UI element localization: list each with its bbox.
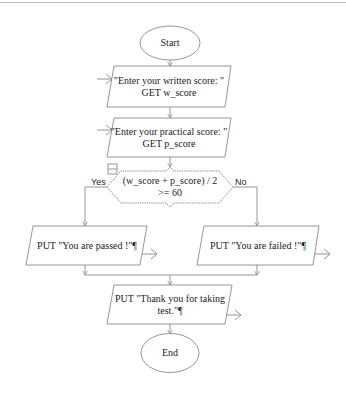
end-label: End bbox=[141, 347, 199, 359]
output-passed-label: PUT "You are passed !"¶ bbox=[28, 240, 146, 252]
decision-condition: (w_score + p_score) / 2 bbox=[110, 175, 230, 187]
yes-label: Yes bbox=[91, 177, 106, 187]
decision-threshold: >= 60 bbox=[110, 187, 230, 199]
input-written-prompt: "Enter your written score: " bbox=[108, 75, 230, 87]
output-arrow-icon bbox=[315, 249, 330, 259]
output-thanks-line2: test."¶ bbox=[110, 305, 230, 317]
no-label: No bbox=[235, 177, 247, 187]
input-written-get: GET w_score bbox=[108, 87, 230, 99]
output-failed-label: PUT "You are failed !"¶ bbox=[199, 240, 317, 252]
start-label: Start bbox=[140, 37, 200, 49]
output-thanks-line1: PUT "Thank you for taking bbox=[110, 293, 230, 305]
input-practical-prompt: "Enter your practical score: " bbox=[108, 126, 230, 138]
flowchart-canvas bbox=[0, 0, 346, 399]
input-practical-get: GET p_score bbox=[108, 138, 230, 150]
